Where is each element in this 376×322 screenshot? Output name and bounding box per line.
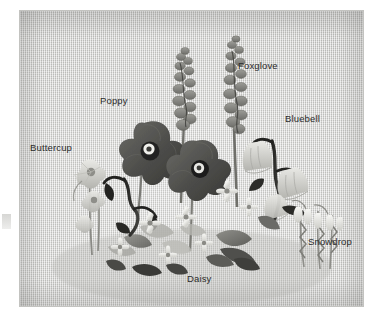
page-edge-artifact	[2, 214, 11, 229]
label-foxglove: Foxglove	[238, 60, 278, 71]
label-poppy: Poppy	[100, 95, 128, 106]
label-snowdrop: Snowdrop	[308, 236, 352, 247]
label-buttercup: Buttercup	[30, 142, 72, 153]
label-daisy: Daisy	[187, 273, 212, 284]
embroidery-artwork	[20, 11, 363, 306]
label-bluebell: Bluebell	[285, 113, 320, 124]
screenshot-root: Foxglove Poppy Bluebell Buttercup Snowdr…	[0, 0, 376, 322]
embroidery-photo	[20, 11, 363, 306]
